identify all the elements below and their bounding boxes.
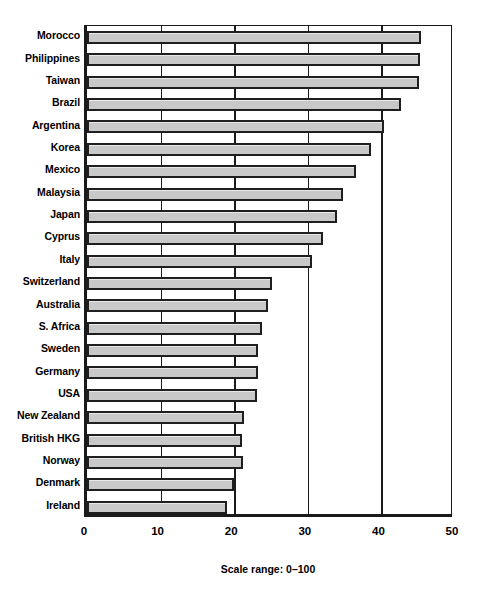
- bar-chart: MoroccoPhilippinesTaiwanBrazilArgentinaK…: [0, 0, 480, 606]
- bar-row: [87, 294, 455, 316]
- bar: [87, 456, 243, 469]
- bar: [87, 188, 343, 201]
- category-label: Korea: [0, 142, 80, 153]
- bar-row: [87, 384, 455, 406]
- category-label: Australia: [0, 299, 80, 310]
- bar: [87, 366, 258, 379]
- bar-row: [87, 451, 455, 473]
- x-tick-label: 0: [81, 524, 87, 538]
- category-label: S. Africa: [0, 321, 80, 332]
- x-tick-label: 30: [298, 524, 311, 538]
- bar-row: [87, 26, 455, 48]
- category-label: Switzerland: [0, 276, 80, 287]
- bar-row: [87, 250, 455, 272]
- bar-row: [87, 227, 455, 249]
- category-label: Argentina: [0, 120, 80, 131]
- bar: [87, 76, 419, 89]
- bar-row: [87, 317, 455, 339]
- category-label: Philippines: [0, 53, 80, 64]
- bar-row: [87, 160, 455, 182]
- plot-area: [84, 25, 452, 517]
- bar: [87, 299, 268, 312]
- category-label: Cyprus: [0, 231, 80, 242]
- bar-row: [87, 138, 455, 160]
- bar-row: [87, 115, 455, 137]
- category-label: Morocco: [0, 30, 80, 41]
- bar-row: [87, 473, 455, 495]
- x-tick-label: 50: [446, 524, 459, 538]
- category-label: Norway: [0, 455, 80, 466]
- bar-row: [87, 183, 455, 205]
- bar: [87, 277, 272, 290]
- bar: [87, 31, 421, 44]
- axis-caption: Scale range: 0–100: [84, 563, 452, 575]
- category-axis-labels: MoroccoPhilippinesTaiwanBrazilArgentinaK…: [0, 25, 80, 517]
- bar-row: [87, 71, 455, 93]
- bar-row: [87, 272, 455, 294]
- category-label: Ireland: [0, 500, 80, 511]
- bar-row: [87, 205, 455, 227]
- bar-row: [87, 429, 455, 451]
- bar: [87, 143, 371, 156]
- bar: [87, 478, 234, 491]
- bar: [87, 120, 384, 133]
- bar: [87, 210, 337, 223]
- bar: [87, 434, 242, 447]
- bar-row: [87, 339, 455, 361]
- category-label: Brazil: [0, 97, 80, 108]
- category-label: Mexico: [0, 164, 80, 175]
- category-label: Taiwan: [0, 75, 80, 86]
- category-label: Sweden: [0, 343, 80, 354]
- bar: [87, 411, 244, 424]
- bar-row: [87, 496, 455, 518]
- category-label: British HKG: [0, 433, 80, 444]
- bar: [87, 322, 262, 335]
- bar-row: [87, 361, 455, 383]
- bar-row: [87, 93, 455, 115]
- bar: [87, 98, 401, 111]
- x-tick-label: 20: [225, 524, 238, 538]
- bar: [87, 255, 312, 268]
- category-label: Germany: [0, 366, 80, 377]
- category-label: Italy: [0, 254, 80, 265]
- bar: [87, 232, 323, 245]
- bar: [87, 389, 257, 402]
- category-label: New Zealand: [0, 410, 80, 421]
- bar: [87, 53, 420, 66]
- category-label: Japan: [0, 209, 80, 220]
- bar-row: [87, 48, 455, 70]
- bar-row: [87, 406, 455, 428]
- category-label: Malaysia: [0, 187, 80, 198]
- bar-rows: [87, 26, 451, 514]
- category-label: Denmark: [0, 477, 80, 488]
- bar: [87, 165, 356, 178]
- bar: [87, 344, 258, 357]
- x-tick-label: 10: [151, 524, 164, 538]
- bar: [87, 501, 227, 514]
- category-label: USA: [0, 388, 80, 399]
- x-tick-label: 40: [372, 524, 385, 538]
- x-axis-tick-labels: 01020304050: [0, 524, 480, 542]
